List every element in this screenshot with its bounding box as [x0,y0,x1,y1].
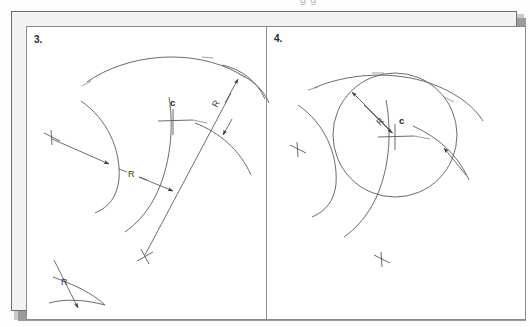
radius-dimension-main [52,139,173,191]
radius-dimension-upper-right [223,79,238,135]
outer-arc-left-tail [82,81,91,86]
bottom-left-arc [49,277,105,305]
center-mark-lower-right [137,249,153,264]
center-extension-dash [414,136,430,139]
drawing-canvas: R R [27,27,526,320]
panel-3-radius-label-upper-right: R [210,98,222,109]
clipped-header-text: g g [300,0,317,5]
radius-label-tick-left [119,169,127,172]
panel-3-drawing: R R [44,57,269,308]
center-mark-left [290,142,306,157]
plate-inner-frame: 3. 4. [26,26,526,320]
middle-construction-arc [125,97,171,232]
center-mark [378,124,414,150]
right-lower-arc [195,123,251,175]
radius-construction-line-right [145,93,231,255]
center-mark-lower [374,252,390,267]
center-extension-dash [193,120,207,123]
left-construction-arc [81,101,119,213]
panel-3-radius-label-main: R [128,169,135,179]
right-lower-arc [413,126,469,180]
outer-arc-top [87,57,269,103]
outer-arc-left-tail [308,87,318,90]
panel-4-drawing: R c [290,73,483,267]
center-mark-middle [158,109,193,135]
clipped-header-strip: g g [0,0,530,10]
plate-outer-frame: 3. 4. [11,11,517,311]
arc-break-dash-1 [202,57,213,58]
center-mark-left [44,130,60,145]
outer-arc-top-right [222,65,265,99]
drawing-page: g g 3. 4. [0,0,530,327]
radius-dimension [352,92,393,133]
panel-3-radius-label-lower-left: R [61,277,68,287]
radius-label-tick-right [139,177,147,180]
panel-3-center-label: c [170,97,175,108]
panel-4-center-label: c [399,115,404,126]
left-construction-arc [298,105,336,217]
